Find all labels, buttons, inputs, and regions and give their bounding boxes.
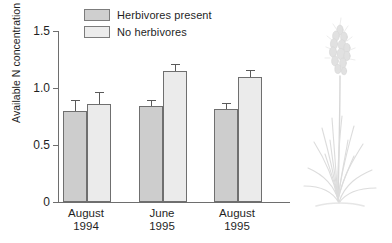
bar-group-2 [214,31,262,202]
error-bar-cap-1-0 [95,92,104,93]
error-bar-cap-0-1 [147,100,156,101]
y-tick-mark-0 [53,202,58,203]
x-tick-label-group-2: August 1995 [177,207,297,233]
error-bar-stem-0-2 [226,104,227,109]
error-bar-stem-1-2 [250,71,251,77]
error-bar-stem-1-0 [99,93,100,104]
error-bar-cap-0-2 [222,103,231,104]
bar-group-1 [139,31,187,202]
bar-no-herbivores-2 [238,77,262,202]
y-tick-label-1_0: 1.0 [18,81,50,95]
error-bar-stem-0-0 [75,101,76,111]
bar-herbivores-present-1 [139,106,163,202]
error-bar-stem-0-1 [151,101,152,106]
y-tick-label-1_5: 1.5 [18,24,50,38]
x-tick-label-group-1-line1: June [150,207,175,219]
bar-chart-figure: Herbivores present No herbivores 1.5 1.0… [0,0,392,243]
bar-herbivores-present-2 [214,109,238,202]
bar-herbivores-present-0 [63,111,87,202]
y-axis-title: Available N concentration (mg/kg soil) [10,0,22,134]
plot-area [58,31,290,202]
error-bar-cap-1-1 [171,64,180,65]
y-tick-label-0_5: 0.5 [18,138,50,152]
bar-group-0 [63,31,111,202]
x-tick-label-group-2-line2: 1995 [177,220,297,233]
bar-no-herbivores-0 [87,104,111,202]
error-bar-cap-1-2 [246,70,255,71]
error-bar-cap-0-0 [71,100,80,101]
bar-no-herbivores-1 [163,71,187,202]
grass-plant-illustration [300,14,386,226]
x-tick-label-group-0-line1: August [68,207,104,219]
x-tick-label-group-2-line1: August [219,207,255,219]
error-bar-stem-1-1 [175,65,176,71]
